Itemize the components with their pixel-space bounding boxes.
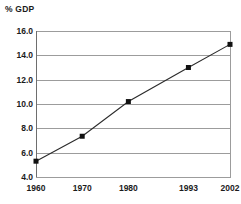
series-line-gdp — [36, 44, 230, 161]
data-point-marker — [34, 159, 39, 164]
data-series-layer — [0, 0, 241, 204]
data-point-marker — [186, 65, 191, 70]
chart-figure: % GDP 16.014.012.010.08.06.04.0 19601970… — [0, 0, 241, 204]
data-point-marker — [126, 99, 131, 104]
data-point-marker — [80, 134, 85, 139]
data-point-marker — [228, 42, 233, 47]
